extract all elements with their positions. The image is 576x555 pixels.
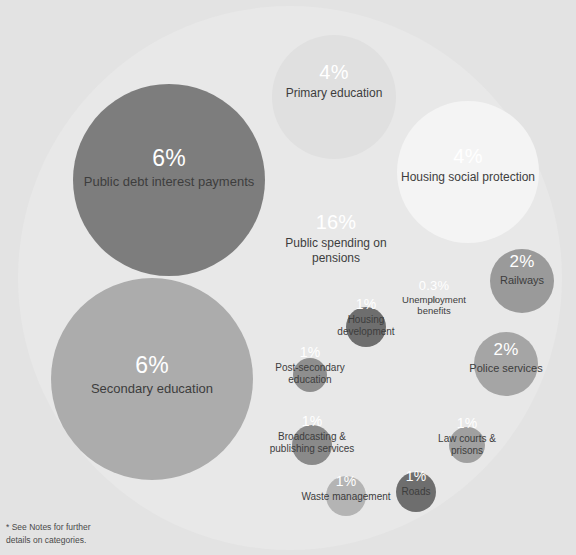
bubble-railways[interactable] (490, 249, 554, 313)
bubble-law-courts-prisons[interactable] (449, 427, 485, 463)
bubble-waste-management[interactable] (326, 476, 366, 516)
footnote: * See Notes for further details on categ… (6, 521, 126, 547)
footnote-line-1: * See Notes for further (6, 521, 126, 534)
bubble-chart: 16% Public spending on pensions * See No… (0, 0, 576, 555)
bubble-housing-social-protection[interactable] (397, 101, 539, 243)
bubble-unemployment-benefits[interactable] (431, 297, 437, 303)
bubble-post-secondary-education[interactable] (293, 358, 327, 392)
bubble-secondary-education[interactable] (51, 278, 253, 480)
bubble-roads[interactable] (396, 472, 436, 512)
bubble-public-debt-interest-payments[interactable] (73, 84, 265, 276)
bubble-broadcasting-publishing-services[interactable] (292, 425, 332, 465)
bubble-police-services[interactable] (474, 332, 538, 396)
bubble-primary-education[interactable] (272, 35, 396, 159)
bubble-housing-development[interactable] (346, 307, 386, 347)
footnote-line-2: details on categories. (6, 534, 126, 547)
